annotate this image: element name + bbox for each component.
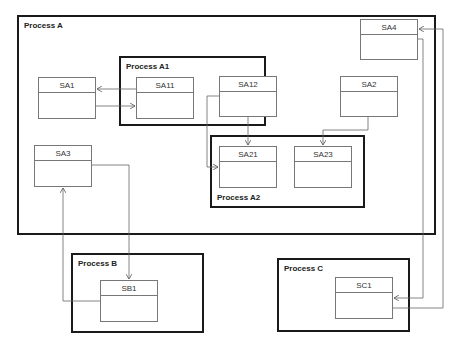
box-sb1-title: SB1 bbox=[101, 281, 157, 296]
box-sa3[interactable]: SA3 bbox=[34, 145, 92, 187]
box-sa12[interactable]: SA12 bbox=[219, 76, 277, 117]
box-sa23-title: SA23 bbox=[295, 147, 351, 162]
process-a-label: Process A bbox=[24, 21, 63, 30]
box-sa1[interactable]: SA1 bbox=[38, 77, 96, 119]
box-sa21[interactable]: SA21 bbox=[219, 146, 277, 188]
process-b-label: Process B bbox=[78, 259, 117, 268]
box-sa2-title: SA2 bbox=[341, 77, 397, 92]
box-sa11-title: SA11 bbox=[137, 78, 193, 93]
box-sa21-title: SA21 bbox=[220, 147, 276, 162]
process-a2-label: Process A2 bbox=[217, 193, 260, 202]
box-sc1-title: SC1 bbox=[336, 278, 392, 293]
box-sa3-title: SA3 bbox=[35, 146, 91, 161]
box-sa1-title: SA1 bbox=[39, 78, 95, 93]
box-sc1[interactable]: SC1 bbox=[335, 277, 393, 319]
box-sa23[interactable]: SA23 bbox=[294, 146, 352, 188]
process-c-label: Process C bbox=[284, 264, 323, 273]
box-sa11[interactable]: SA11 bbox=[136, 77, 194, 119]
box-sa2[interactable]: SA2 bbox=[340, 76, 398, 117]
box-sa4-title: SA4 bbox=[361, 20, 417, 35]
box-sa4[interactable]: SA4 bbox=[360, 19, 418, 60]
process-a1-label: Process A1 bbox=[126, 62, 169, 71]
box-sa12-title: SA12 bbox=[220, 77, 276, 92]
box-sb1[interactable]: SB1 bbox=[100, 280, 158, 322]
